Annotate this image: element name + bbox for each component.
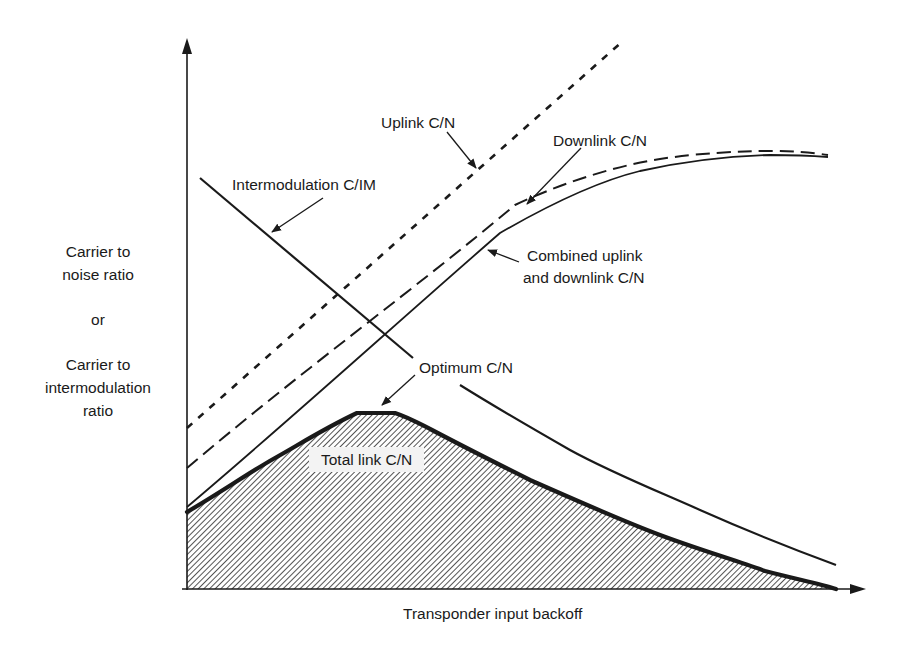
intermod-cim-line: [200, 178, 413, 358]
combined-label-line1: Combined uplink: [527, 246, 642, 265]
uplink-cn-line: [187, 40, 624, 428]
combined-label-line2: and downlink C/N: [523, 268, 644, 287]
downlink-label: Downlink C/N: [553, 131, 647, 150]
y-axis-label-line3: or: [18, 308, 178, 331]
uplink-arrow-icon: [447, 132, 476, 168]
y-axis-label-line5: intermodulation: [18, 376, 178, 399]
downlink-cn-line: [187, 151, 828, 468]
total-link-label: Total link C/N: [309, 447, 424, 472]
x-axis-arrow-icon: [850, 584, 866, 594]
optimum-arrow-icon: [382, 375, 415, 405]
intermod-label: Intermodulation C/IM: [232, 175, 376, 194]
x-axis-label: Transponder input backoff: [403, 604, 582, 623]
y-axis-arrow-icon: [182, 38, 192, 54]
intermod-arrow-icon: [272, 198, 323, 232]
y-axis-label-line1: Carrier to: [18, 240, 178, 263]
y-axis-label-line6: ratio: [18, 399, 178, 422]
uplink-label: Uplink C/N: [381, 113, 455, 132]
optimum-label: Optimum C/N: [419, 358, 513, 377]
y-axis-label-line4: Carrier to: [18, 353, 178, 376]
y-axis-label-line2: noise ratio: [18, 263, 178, 286]
combined-arrow-icon: [488, 250, 519, 262]
